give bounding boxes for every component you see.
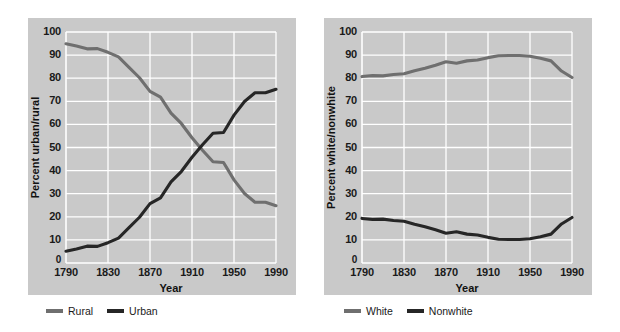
legend-entry-white[interactable]: White <box>344 305 393 317</box>
plot-area-urban-rural <box>28 18 296 295</box>
legend-entry-urban[interactable]: Urban <box>107 305 158 317</box>
x-axis-title: Year <box>362 282 572 294</box>
chart-panel-white-nonwhite <box>324 18 592 295</box>
legend-label: Rural <box>68 305 93 317</box>
series-line-nonwhite <box>362 217 572 239</box>
chart-panel-urban-rural <box>28 18 296 295</box>
x-tick-label: 1910 <box>466 266 510 278</box>
legend-swatch-rural-icon <box>46 309 63 313</box>
plot-area-white-nonwhite <box>324 18 592 295</box>
x-axis-title: Year <box>66 282 276 294</box>
x-tick-label: 1910 <box>170 266 214 278</box>
x-tick-label: 1830 <box>86 266 130 278</box>
x-tick-label: 1870 <box>424 266 468 278</box>
legend-white-nonwhite: WhiteNonwhite <box>344 305 473 317</box>
y-axis-title: Percent urban/rural <box>29 32 41 263</box>
x-tick-label: 1950 <box>508 266 552 278</box>
figure-container: 0102030405060708090100179018301870191019… <box>0 0 620 332</box>
legend-entry-nonwhite[interactable]: Nonwhite <box>407 305 473 317</box>
x-tick-label: 1990 <box>254 266 298 278</box>
legend-swatch-urban-icon <box>107 309 124 313</box>
x-tick-label: 1790 <box>44 266 88 278</box>
legend-urban-rural: RuralUrban <box>46 305 158 317</box>
legend-label: Nonwhite <box>429 305 473 317</box>
x-tick-label: 1950 <box>212 266 256 278</box>
x-tick-label: 1790 <box>340 266 384 278</box>
legend-entry-rural[interactable]: Rural <box>46 305 93 317</box>
series-line-white <box>362 56 572 78</box>
legend-swatch-white-icon <box>344 309 361 313</box>
x-tick-label: 1830 <box>382 266 426 278</box>
legend-label: Urban <box>129 305 158 317</box>
x-tick-label: 1870 <box>128 266 172 278</box>
y-axis-title: Percent white/nonwhite <box>325 32 337 263</box>
x-tick-label: 1990 <box>550 266 594 278</box>
legend-swatch-nonwhite-icon <box>407 309 424 313</box>
legend-label: White <box>366 305 393 317</box>
